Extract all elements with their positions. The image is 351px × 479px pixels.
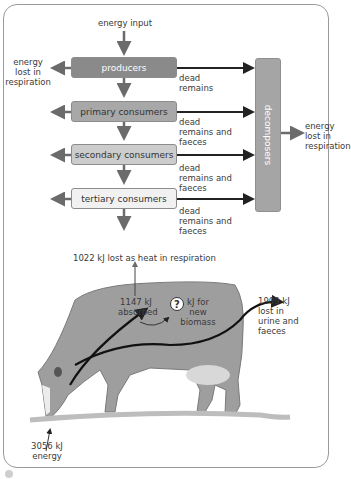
producers-box: producers bbox=[71, 57, 177, 78]
dead-remains-label-4: deadremains andfaeces bbox=[179, 206, 232, 236]
energy-intake-label: 3056 kJenergy bbox=[22, 441, 72, 461]
left-loss-label: energylost inrespiration bbox=[2, 57, 54, 87]
absorbed-label: 1147 kJabsorbed bbox=[118, 297, 154, 317]
heat-loss-label: 1022 kJ lost as heat in respiration bbox=[73, 253, 216, 263]
energy-input-label: energy input bbox=[95, 18, 155, 28]
primary-consumers-box: primary consumers bbox=[71, 101, 177, 122]
cow-illustration bbox=[30, 282, 290, 420]
dead-remains-label-3: deadremains andfaeces bbox=[179, 163, 232, 193]
corner-marker-icon bbox=[5, 470, 13, 478]
tertiary-consumers-box: tertiary consumers bbox=[71, 188, 177, 209]
dead-remains-label-1: deadremains bbox=[179, 73, 213, 93]
decomposers-box: decomposers bbox=[255, 58, 281, 212]
decomposer-loss-label: energylost inrespiration bbox=[305, 121, 351, 151]
secondary-consumers-box: secondary consumers bbox=[71, 144, 177, 165]
biomass-label: kJ fornewbiomass bbox=[178, 297, 218, 327]
dead-remains-label-2: deadremains andfaeces bbox=[179, 117, 232, 147]
urine-faeces-label: 1909 kJlost inurine andfaeces bbox=[258, 296, 299, 336]
